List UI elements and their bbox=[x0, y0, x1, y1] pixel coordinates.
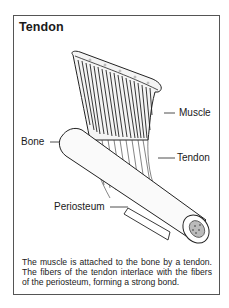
figure-caption: The muscle is attached to the bone by a … bbox=[22, 257, 212, 288]
bone-drawing bbox=[59, 128, 214, 248]
label-muscle: Muscle bbox=[179, 107, 211, 118]
label-tendon: Tendon bbox=[177, 152, 210, 163]
label-periosteum: Periosteum bbox=[54, 201, 105, 212]
label-bone: Bone bbox=[21, 136, 44, 147]
muscle-drawing bbox=[72, 51, 161, 140]
